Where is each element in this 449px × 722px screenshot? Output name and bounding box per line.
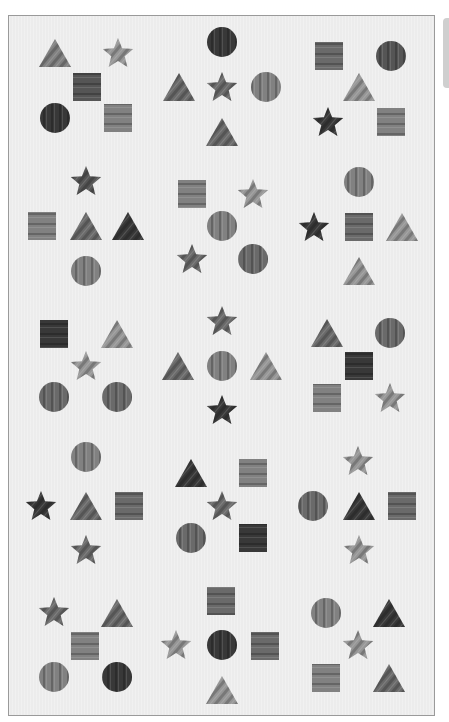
puzzle-board	[8, 15, 435, 716]
scrollbar-thumb[interactable]	[443, 18, 449, 88]
scrollbar-track[interactable]	[442, 15, 449, 716]
